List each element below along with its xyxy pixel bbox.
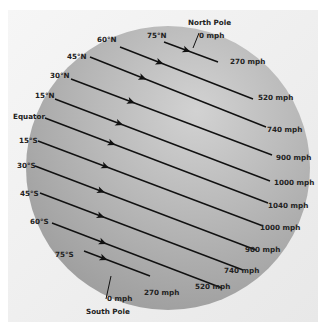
latitude-label: 45°S [20, 189, 39, 198]
latitude-label: 30°N [50, 71, 70, 80]
speed-label: 270 mph [144, 288, 179, 297]
earth-rotation-diagram: 75°N270 mph60°N520 mph45°N740 mph30°N900… [0, 0, 324, 332]
speed-label: 1040 mph [268, 201, 308, 210]
speed-label: 900 mph [245, 245, 280, 254]
latitude-label: 30°S [17, 161, 36, 170]
speed-label: 520 mph [195, 282, 230, 291]
south-pole-label: South Pole [86, 307, 130, 316]
latitude-label: 15°N [35, 91, 55, 100]
speed-label: 740 mph [267, 125, 302, 134]
latitude-label: 75°S [55, 250, 74, 259]
speed-label: 900 mph [276, 153, 311, 162]
north-pole-label: North Pole [188, 18, 231, 27]
south-pole-speed: 0 mph [107, 294, 132, 303]
speed-label: 1000 mph [274, 178, 314, 187]
speed-label: 270 mph [230, 57, 265, 66]
speed-label: 520 mph [258, 93, 293, 102]
north-pole-speed: 0 mph [199, 31, 224, 40]
speed-label: 740 mph [224, 266, 259, 275]
latitude-label: Equator [13, 112, 45, 121]
speed-label: 1000 mph [260, 223, 300, 232]
diagram-stage: 75°N270 mph60°N520 mph45°N740 mph30°N900… [0, 0, 324, 332]
latitude-label: 60°N [97, 35, 117, 44]
latitude-label: 15°S [19, 136, 38, 145]
latitude-label: 60°S [30, 217, 49, 226]
latitude-label: 45°N [67, 52, 87, 61]
latitude-label: 75°N [147, 31, 167, 40]
